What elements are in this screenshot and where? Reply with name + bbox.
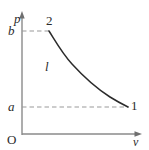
pv-diagram-canvas (0, 0, 149, 150)
point-label-2: 2 (46, 14, 53, 27)
x-axis-label: v (133, 136, 138, 148)
pv-diagram-figure: p v b a O 2 1 l (0, 0, 149, 150)
y-tick-label-b: b (8, 24, 15, 37)
origin-label: O (7, 133, 16, 146)
point-label-1: 1 (131, 99, 138, 112)
process-curve-l (49, 31, 128, 107)
curve-label-l: l (45, 60, 49, 73)
y-tick-label-a: a (8, 100, 15, 113)
